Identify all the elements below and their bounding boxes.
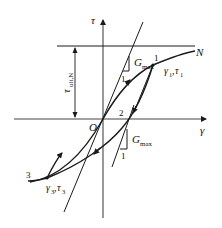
- svg-text:max: max: [142, 63, 155, 71]
- hysteresis-diagram: τ γ O N τ ult,N G max 1 G max 1 1 γ 1 , …: [0, 0, 222, 228]
- svg-text:G: G: [132, 133, 140, 145]
- tau-axis-label: τ: [91, 14, 96, 26]
- slope-bottom-run-label: 1: [121, 151, 126, 161]
- slope-triangle-bottom: [120, 129, 127, 149]
- curve-end-label-n: N: [195, 46, 204, 58]
- tau-ult-label: τ ult,N: [60, 73, 75, 93]
- svg-text:3: 3: [62, 188, 65, 195]
- svg-text:1: 1: [180, 71, 183, 78]
- origin-label: O: [89, 121, 97, 133]
- svg-text:max: max: [140, 140, 153, 148]
- gmax-top-label: G max: [134, 56, 155, 71]
- point-1-number: 1: [154, 53, 159, 63]
- unloading-arrow: [94, 148, 100, 154]
- point-3-marker: [45, 176, 48, 179]
- point-3-number: 3: [26, 170, 31, 180]
- svg-text:τ: τ: [60, 88, 72, 93]
- svg-text:ult,N: ult,N: [67, 73, 75, 87]
- svg-text:G: G: [134, 56, 142, 68]
- gmax-bottom-label: G max: [132, 133, 153, 148]
- point-1-coords: γ 1 , τ 1: [164, 65, 183, 78]
- unloading-second-line: [134, 65, 153, 112]
- point-2-number: 2: [119, 108, 124, 118]
- svg-text:τ: τ: [57, 182, 61, 193]
- axes: [14, 20, 206, 218]
- point-3-coords: γ 3 , τ 3: [46, 182, 65, 195]
- svg-text:τ: τ: [175, 65, 179, 76]
- gamma-axis-label: γ: [200, 124, 205, 136]
- slope-top-run-label: 1: [121, 74, 126, 84]
